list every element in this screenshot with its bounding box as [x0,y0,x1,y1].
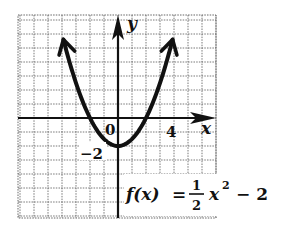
equation-label: f(x) = 1 2 x 2 − 2 [124,174,282,216]
equation-var: x [208,184,220,204]
x-axis-label: x [200,118,212,138]
equation-equals: = [172,184,186,204]
equation-constant: − 2 [236,184,268,204]
equation-exponent: 2 [222,179,230,192]
x-tick-label-4: 4 [166,123,176,141]
fraction-denominator: 2 [192,198,201,213]
function-graph: y x 0 4 −2 f(x) = 1 2 x 2 − 2 [0,0,293,230]
equation-lhs: f(x) [125,184,160,204]
origin-label: 0 [105,121,115,139]
y-tick-label-neg2: −2 [80,145,103,163]
fraction-numerator: 1 [192,178,201,193]
y-axis-label: y [126,13,138,33]
